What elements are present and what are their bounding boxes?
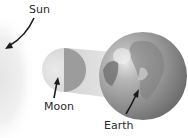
earth-highlight <box>113 48 131 64</box>
sun-label: Sun <box>29 4 50 15</box>
moon-body <box>42 48 86 92</box>
moon-label: Moon <box>44 101 74 112</box>
eclipse-diagram: Sun Moon Earth <box>0 0 188 138</box>
earth-globe <box>99 32 187 120</box>
diagram-graphics <box>0 0 188 138</box>
earth-label: Earth <box>104 120 134 131</box>
